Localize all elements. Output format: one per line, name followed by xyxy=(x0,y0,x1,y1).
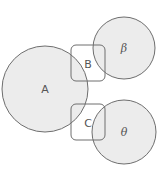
label-c: C xyxy=(84,117,92,130)
label-a: A xyxy=(41,83,49,96)
label-theta: θ xyxy=(121,126,128,139)
label-b: B xyxy=(84,58,92,71)
venn-diagram: A B C β θ xyxy=(0,0,157,179)
label-beta: β xyxy=(120,42,127,55)
